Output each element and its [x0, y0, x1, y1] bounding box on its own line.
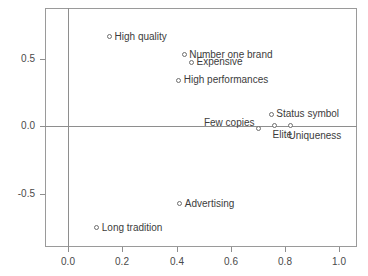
- data-point-label: High performances: [184, 74, 268, 85]
- x-axis-tick: [285, 247, 286, 252]
- x-axis-tick: [339, 247, 340, 252]
- x-axis-tick-label: 0.6: [211, 256, 251, 267]
- data-point-label: Uniqueness: [289, 130, 342, 141]
- data-point-label: Few copies: [0, 117, 255, 128]
- x-axis-tick: [231, 247, 232, 252]
- data-point[interactable]: [269, 112, 274, 117]
- y-axis-tick-label: 0.5: [0, 53, 35, 64]
- x-axis-tick-label: 0.8: [265, 256, 305, 267]
- scatter-plot: 0.00.20.40.60.81.00.50.0-0.5High quality…: [0, 0, 368, 276]
- y-axis-tick-label: -0.5: [0, 188, 35, 199]
- x-axis-tick-label: 0.4: [157, 256, 197, 267]
- x-axis-tick: [122, 247, 123, 252]
- x-axis-tick-label: 0.2: [102, 256, 142, 267]
- x-axis-tick-label: 0.0: [48, 256, 88, 267]
- data-point-label: Expensive: [197, 56, 243, 67]
- data-point-label: Long tradition: [102, 222, 163, 233]
- data-point-label: Status symbol: [276, 108, 339, 119]
- data-point-label: Advertising: [185, 198, 234, 209]
- x-axis-tick: [68, 247, 69, 252]
- data-point[interactable]: [256, 126, 261, 131]
- y-axis-tick: [40, 59, 45, 60]
- data-point-label: High quality: [115, 31, 167, 42]
- x-axis-tick-label: 1.0: [319, 256, 359, 267]
- y-axis-tick: [40, 194, 45, 195]
- data-point[interactable]: [272, 123, 277, 128]
- data-point[interactable]: [176, 78, 181, 83]
- x-axis-tick: [177, 247, 178, 252]
- data-point[interactable]: [189, 60, 194, 65]
